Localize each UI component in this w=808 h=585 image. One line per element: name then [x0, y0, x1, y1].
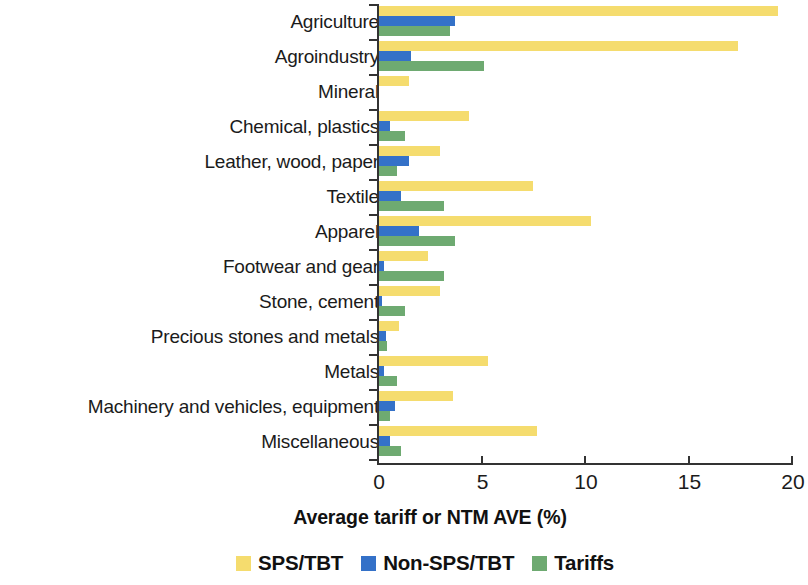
bar-group [378, 74, 808, 109]
y-tick [369, 144, 378, 146]
chart-row: Machinery and vehicles, equipment [0, 389, 808, 424]
y-tick [369, 109, 378, 111]
bar-sps-tbt [378, 41, 738, 51]
category-label: Leather, wood, paper [19, 152, 379, 172]
y-tick [369, 249, 378, 251]
chart-row: Agriculture [0, 4, 808, 39]
bar-tariffs [378, 201, 444, 211]
x-tick [584, 456, 586, 465]
y-tick [369, 4, 378, 6]
bar-group [378, 179, 808, 214]
bar-group [378, 424, 808, 459]
bar-group [378, 109, 808, 144]
bar-tariffs [378, 236, 455, 246]
chart-row: Metals [0, 354, 808, 389]
legend-item[interactable]: SPS/TBT [236, 551, 343, 575]
category-label: Footwear and gear [19, 257, 379, 277]
bar-tariffs [378, 61, 484, 71]
bar-tariffs [378, 446, 401, 456]
chart-row: Footwear and gear [0, 249, 808, 284]
legend-swatch-icon [236, 556, 251, 571]
bar-tariffs [378, 26, 450, 36]
chart-row: Apparel [0, 214, 808, 249]
y-tick [369, 74, 378, 76]
chart-row: Chemical, plastics [0, 109, 808, 144]
bar-tariffs [378, 306, 405, 316]
bar-sps-tbt [378, 6, 778, 16]
category-label: Metals [19, 362, 379, 382]
x-tick [688, 456, 690, 465]
bar-tariffs [378, 166, 397, 176]
legend-item[interactable]: Tariffs [532, 551, 614, 575]
legend-swatch-icon [361, 556, 376, 571]
category-label: Machinery and vehicles, equipment [19, 397, 379, 417]
category-label: Chemical, plastics [19, 117, 379, 137]
bar-tariffs [378, 271, 444, 281]
bar-sps-tbt [378, 286, 440, 296]
bar-group [378, 249, 808, 284]
chart-row: Mineral [0, 74, 808, 109]
bar-tariffs [378, 411, 390, 421]
y-tick [369, 214, 378, 216]
category-label: Precious stones and metals [19, 327, 379, 347]
plot-area: AgricultureAgroindustryMineralChemical, … [0, 0, 808, 470]
chart-row: Textile [0, 179, 808, 214]
y-tick [369, 424, 378, 426]
bar-sps-tbt [378, 356, 488, 366]
chart-row: Precious stones and metals [0, 319, 808, 354]
bar-group [378, 284, 808, 319]
y-tick [369, 39, 378, 41]
bar-non-sps-tbt [378, 331, 386, 341]
x-tick-label: 15 [660, 470, 720, 494]
bar-sps-tbt [378, 111, 469, 121]
bar-group [378, 319, 808, 354]
y-tick [369, 179, 378, 181]
chart-row: Stone, cement [0, 284, 808, 319]
bar-group [378, 39, 808, 74]
x-tick [791, 456, 793, 465]
x-axis-title: Average tariff or NTM AVE (%) [0, 506, 808, 529]
category-label: Agroindustry [19, 47, 379, 67]
bar-group [378, 4, 808, 39]
bar-sps-tbt [378, 391, 453, 401]
chart-row: Miscellaneous [0, 424, 808, 459]
x-tick [481, 456, 483, 465]
x-tick-label: 0 [349, 470, 409, 494]
category-label: Stone, cement [19, 292, 379, 312]
x-tick-label: 20 [763, 470, 808, 494]
x-tick [377, 456, 379, 465]
bar-tariffs [378, 341, 387, 351]
bar-sps-tbt [378, 321, 399, 331]
category-label: Miscellaneous [19, 432, 379, 452]
bar-sps-tbt [378, 146, 440, 156]
bar-sps-tbt [378, 216, 591, 226]
bar-non-sps-tbt [378, 156, 409, 166]
bar-non-sps-tbt [378, 16, 455, 26]
bar-chart: AgricultureAgroindustryMineralChemical, … [0, 0, 808, 585]
legend-item[interactable]: Non-SPS/TBT [361, 551, 514, 575]
legend-label: Non-SPS/TBT [383, 551, 514, 575]
legend-label: SPS/TBT [258, 551, 343, 575]
legend-swatch-icon [532, 556, 547, 571]
legend-label: Tariffs [554, 551, 614, 575]
bar-non-sps-tbt [378, 121, 390, 131]
bar-group [378, 214, 808, 249]
y-tick [369, 354, 378, 356]
bar-group [378, 389, 808, 424]
bar-sps-tbt [378, 181, 533, 191]
bar-non-sps-tbt [378, 401, 395, 411]
category-label: Agriculture [19, 12, 379, 32]
bar-non-sps-tbt [378, 226, 419, 236]
y-tick [369, 319, 378, 321]
bar-non-sps-tbt [378, 191, 401, 201]
bar-non-sps-tbt [378, 436, 390, 446]
y-tick [369, 284, 378, 286]
x-tick-label: 10 [556, 470, 616, 494]
x-tick-label: 5 [453, 470, 513, 494]
category-label: Mineral [19, 82, 379, 102]
chart-legend: SPS/TBTNon-SPS/TBTTariffs [0, 551, 808, 575]
category-rows: AgricultureAgroindustryMineralChemical, … [0, 4, 808, 459]
bar-sps-tbt [378, 251, 428, 261]
bar-sps-tbt [378, 426, 537, 436]
chart-row: Agroindustry [0, 39, 808, 74]
